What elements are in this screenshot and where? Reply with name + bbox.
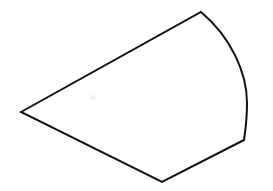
drawing-canvas [0,0,273,191]
shape-svg-container [0,0,273,191]
sector-quadrilateral-outline [21,12,247,182]
